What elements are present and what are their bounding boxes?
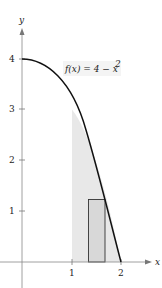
y-tick-1: 1 — [9, 206, 15, 216]
function-label: f(x) = 4 − x — [64, 64, 118, 74]
y-tick-2: 2 — [9, 155, 15, 165]
chart-canvas: 1 2 1 2 3 4 x y f(x) = 4 − x 2 — [0, 0, 162, 288]
x-tick-2: 2 — [118, 268, 124, 278]
y-axis-label: y — [18, 15, 25, 25]
function-label-exponent: 2 — [114, 59, 121, 69]
y-tick-4: 4 — [9, 54, 15, 64]
x-axis-label: x — [155, 257, 160, 267]
y-axis-arrow-icon — [20, 28, 25, 35]
riemann-rectangle — [89, 200, 106, 263]
x-tick-1: 1 — [69, 268, 75, 278]
y-tick-3: 3 — [9, 104, 15, 114]
x-axis-arrow-icon — [145, 260, 152, 265]
